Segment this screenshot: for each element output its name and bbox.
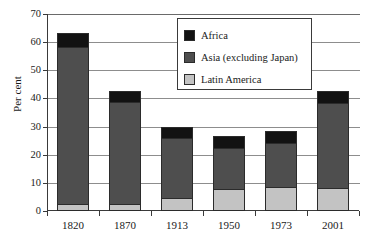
bar-segment-asia bbox=[266, 143, 295, 187]
y-tick-label: 40 bbox=[0, 93, 41, 103]
x-tick-mark bbox=[359, 211, 360, 216]
x-tick-label: 1973 bbox=[255, 219, 307, 231]
bar-segment-africa bbox=[110, 92, 139, 102]
stacked-bar[interactable] bbox=[109, 91, 140, 211]
x-tick-label: 1820 bbox=[47, 219, 99, 231]
legend-item-asia: Asia (excluding Japan) bbox=[184, 46, 305, 68]
legend-label: Asia (excluding Japan) bbox=[201, 52, 298, 63]
stacked-bar-chart: Per cent 010203040506070 182018701913195… bbox=[0, 0, 377, 243]
bar-segment-latin-america bbox=[214, 189, 243, 210]
x-tick-label: 1870 bbox=[99, 219, 151, 231]
legend: Africa Asia (excluding Japan) Latin Amer… bbox=[177, 18, 312, 90]
bar-slot bbox=[99, 14, 151, 211]
bar-segment-latin-america bbox=[110, 204, 139, 210]
light-gray-swatch-icon bbox=[184, 74, 195, 85]
x-tick-mark bbox=[99, 211, 100, 216]
bar-segment-latin-america bbox=[266, 187, 295, 210]
y-tick-label: 30 bbox=[0, 122, 41, 132]
bar-segment-africa bbox=[266, 132, 295, 142]
x-tick-mark bbox=[203, 211, 204, 216]
legend-label: Africa bbox=[201, 30, 228, 41]
bar-segment-asia bbox=[162, 138, 191, 199]
legend-item-africa: Africa bbox=[184, 24, 305, 46]
legend-item-latin: Latin America bbox=[184, 68, 305, 90]
y-tick-label: 0 bbox=[0, 206, 41, 216]
y-tick-label: 60 bbox=[0, 37, 41, 47]
legend-label: Latin America bbox=[201, 74, 261, 85]
bar-segment-asia bbox=[214, 148, 243, 190]
x-tick-mark bbox=[307, 211, 308, 216]
bar-segment-asia bbox=[318, 103, 347, 188]
x-tick-mark bbox=[151, 211, 152, 216]
bar-segment-latin-america bbox=[318, 188, 347, 210]
bar-segment-latin-america bbox=[58, 204, 87, 210]
stacked-bar[interactable] bbox=[213, 136, 244, 211]
bar-segment-africa bbox=[318, 92, 347, 103]
bar-slot bbox=[47, 14, 99, 211]
x-tick-mark bbox=[255, 211, 256, 216]
x-tick-label: 1950 bbox=[203, 219, 255, 231]
stacked-bar[interactable] bbox=[57, 33, 88, 211]
bar-slot bbox=[307, 14, 359, 211]
black-swatch-icon bbox=[184, 30, 195, 41]
bar-segment-asia bbox=[58, 47, 87, 204]
bar-segment-africa bbox=[162, 128, 191, 137]
stacked-bar[interactable] bbox=[265, 131, 296, 211]
y-tick-label: 70 bbox=[0, 9, 41, 19]
x-tick-label: 1913 bbox=[151, 219, 203, 231]
stacked-bar[interactable] bbox=[161, 127, 192, 211]
bar-segment-latin-america bbox=[162, 198, 191, 210]
dark-gray-swatch-icon bbox=[184, 52, 195, 63]
bar-segment-africa bbox=[58, 34, 87, 47]
stacked-bar[interactable] bbox=[317, 91, 348, 211]
y-tick-label: 20 bbox=[0, 150, 41, 160]
x-tick-mark bbox=[47, 211, 48, 216]
y-tick-label: 50 bbox=[0, 65, 41, 75]
bar-segment-africa bbox=[214, 137, 243, 148]
x-tick-label: 2001 bbox=[307, 219, 359, 231]
bar-segment-asia bbox=[110, 102, 139, 204]
y-tick-label: 10 bbox=[0, 178, 41, 188]
